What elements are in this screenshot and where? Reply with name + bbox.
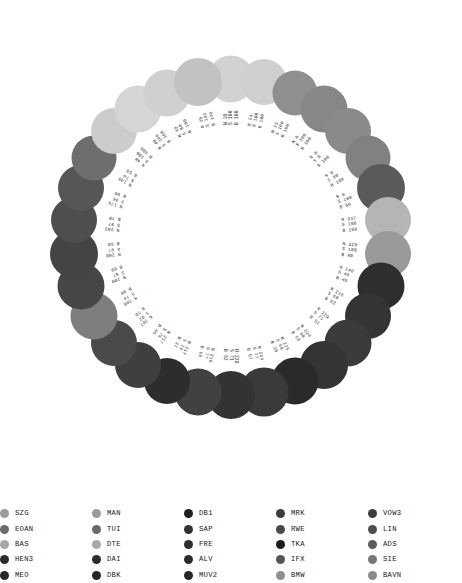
legend-label: DTE bbox=[107, 540, 121, 549]
label-saturation: S 71 bbox=[228, 349, 233, 364]
ring-node-label: N 203S 97B 70 bbox=[104, 216, 120, 233]
legend-swatch-icon bbox=[184, 509, 193, 518]
ring-node-label: N 224S 77B 57 bbox=[247, 345, 266, 363]
legend-item-szg[interactable]: SZG bbox=[0, 506, 92, 521]
legend-label: EOAN bbox=[15, 525, 33, 534]
legend-item-eoan[interactable]: EOAN bbox=[0, 521, 92, 536]
legend-swatch-icon bbox=[368, 525, 377, 534]
legend: SZGEOANBASHEN3MEOMANTUIDTEDAIDBKDB1SAPFR… bbox=[0, 506, 462, 583]
legend-item-db1[interactable]: DB1 bbox=[184, 506, 276, 521]
legend-swatch-icon bbox=[276, 509, 285, 518]
legend-column: SZGEOANBASHEN3MEO bbox=[0, 506, 92, 583]
legend-column: VOW3LINADSSIEBAVN bbox=[368, 506, 460, 583]
legend-swatch-icon bbox=[184, 525, 193, 534]
label-brightness: B 100 bbox=[234, 110, 239, 125]
ring-node-label: N 200S 74B 80 bbox=[117, 286, 138, 307]
ring-node-label: N 0S 80B 100 bbox=[324, 167, 345, 188]
legend-item-tui[interactable]: TUI bbox=[92, 521, 184, 536]
ring-node-label: N 0S 100B 100 bbox=[290, 130, 312, 151]
ring-node-label: N 217S 76B 66 bbox=[150, 323, 172, 344]
legend-column: DB1SAPFREALVMUV2 bbox=[184, 506, 276, 583]
legend-label: SZG bbox=[15, 509, 29, 518]
legend-item-ads[interactable]: ADS bbox=[368, 537, 460, 552]
legend-swatch-icon bbox=[0, 571, 9, 580]
legend-item-alv[interactable]: ALV bbox=[184, 552, 276, 567]
legend-item-dte[interactable]: DTE bbox=[92, 537, 184, 552]
legend-label: LIN bbox=[383, 525, 397, 534]
legend-item-sap[interactable]: SAP bbox=[184, 521, 276, 536]
legend-item-meo[interactable]: MEO bbox=[0, 568, 92, 583]
legend-label: TUI bbox=[107, 525, 121, 534]
ring-node-label: N 207S 92B 70 bbox=[131, 306, 153, 328]
legend-label: SIE bbox=[383, 555, 397, 564]
legend-swatch-icon bbox=[184, 540, 193, 549]
legend-item-mrk[interactable]: MRK bbox=[276, 506, 368, 521]
ring-node-label: N 0S 100B 80 bbox=[335, 190, 354, 210]
ring-node-label: N 48S 100B 100 bbox=[150, 130, 172, 151]
legend-item-dbk[interactable]: DBK bbox=[92, 568, 184, 583]
legend-label: MEO bbox=[15, 571, 29, 580]
legend-label: BMW bbox=[291, 571, 305, 580]
legend-swatch-icon bbox=[368, 571, 377, 580]
legend-item-hen3[interactable]: HEN3 bbox=[0, 552, 92, 567]
legend-swatch-icon bbox=[276, 571, 285, 580]
legend-label: DBK bbox=[107, 571, 121, 580]
legend-label: MAN bbox=[107, 509, 121, 518]
legend-label: MRK bbox=[291, 509, 305, 518]
ring-node[interactable] bbox=[174, 58, 222, 106]
ring-node-label: N 35S 100B 100 bbox=[197, 111, 216, 129]
legend-label: DB1 bbox=[199, 509, 213, 518]
ring-node-label: N 140S 74B 58 bbox=[117, 167, 138, 188]
legend-item-vow3[interactable]: VOW3 bbox=[368, 506, 460, 521]
legend-label: ADS bbox=[383, 540, 397, 549]
ring-node-label: N 35S 100B 100 bbox=[223, 110, 239, 125]
ring-node-label: N 48S 100B 100 bbox=[131, 146, 153, 168]
legend-item-fre[interactable]: FRE bbox=[184, 537, 276, 552]
ring-node-label: N 0S 0B 100 bbox=[309, 146, 331, 168]
legend-item-bavn[interactable]: BAVN bbox=[368, 568, 460, 583]
legend-label: ALV bbox=[199, 555, 213, 564]
legend-label: IFX bbox=[291, 555, 305, 564]
ring-node-label: N 328S 100B 80 bbox=[342, 241, 358, 258]
ring-node-label: N 179S 96B 60 bbox=[108, 190, 127, 210]
legend-item-sie[interactable]: SIE bbox=[368, 552, 460, 567]
legend-item-rwe[interactable]: RWE bbox=[276, 521, 368, 536]
legend-item-bmw[interactable]: BMW bbox=[276, 568, 368, 583]
label-hue: N 228 bbox=[234, 349, 239, 364]
legend-item-muv2[interactable]: MUV2 bbox=[184, 568, 276, 583]
legend-item-dai[interactable]: DAI bbox=[92, 552, 184, 567]
legend-swatch-icon bbox=[368, 555, 377, 564]
circular-node-chart: N 35S 100B 100N 24S 100B 100N 11S 100B 1… bbox=[0, 0, 462, 470]
ring-node-label: N 11S 100B 100 bbox=[269, 118, 290, 138]
legend-item-lin[interactable]: LIN bbox=[368, 521, 460, 536]
ring-node-label: N 24S 100B 100 bbox=[247, 111, 266, 129]
legend-item-man[interactable]: MAN bbox=[92, 506, 184, 521]
legend-swatch-icon bbox=[92, 571, 101, 580]
legend-item-ifx[interactable]: IFX bbox=[276, 552, 368, 567]
ring-node-label: N 224S 68B 53 bbox=[290, 323, 312, 344]
legend-swatch-icon bbox=[92, 525, 101, 534]
ring-node-label: N 200S 97B 60 bbox=[108, 264, 127, 284]
legend-swatch-icon bbox=[276, 540, 285, 549]
legend-swatch-icon bbox=[92, 509, 101, 518]
legend-label: FRE bbox=[199, 540, 213, 549]
legend-column: MANTUIDTEDAIDBK bbox=[92, 506, 184, 583]
ring-node-label: N 217S 74B 37 bbox=[172, 336, 193, 356]
legend-swatch-icon bbox=[184, 571, 193, 580]
legend-swatch-icon bbox=[92, 555, 101, 564]
legend-label: BAS bbox=[15, 540, 29, 549]
legend-swatch-icon bbox=[92, 540, 101, 549]
legend-item-bas[interactable]: BAS bbox=[0, 537, 92, 552]
legend-item-tka[interactable]: TKA bbox=[276, 537, 368, 552]
label-saturation: S 100 bbox=[228, 110, 233, 125]
ring-node-label: N 216S 68B 53 bbox=[324, 286, 345, 307]
legend-swatch-icon bbox=[0, 525, 9, 534]
legend-label: BAVN bbox=[383, 571, 401, 580]
legend-swatch-icon bbox=[184, 555, 193, 564]
ring-node-label: N 225S 68B 38 bbox=[269, 336, 290, 356]
legend-column: MRKRWETKAIFXBMW bbox=[276, 506, 368, 583]
legend-label: SAP bbox=[199, 525, 213, 534]
ring-node-label: N 49S 80B 100 bbox=[172, 118, 193, 138]
legend-swatch-icon bbox=[368, 509, 377, 518]
legend-label: RWE bbox=[291, 525, 305, 534]
